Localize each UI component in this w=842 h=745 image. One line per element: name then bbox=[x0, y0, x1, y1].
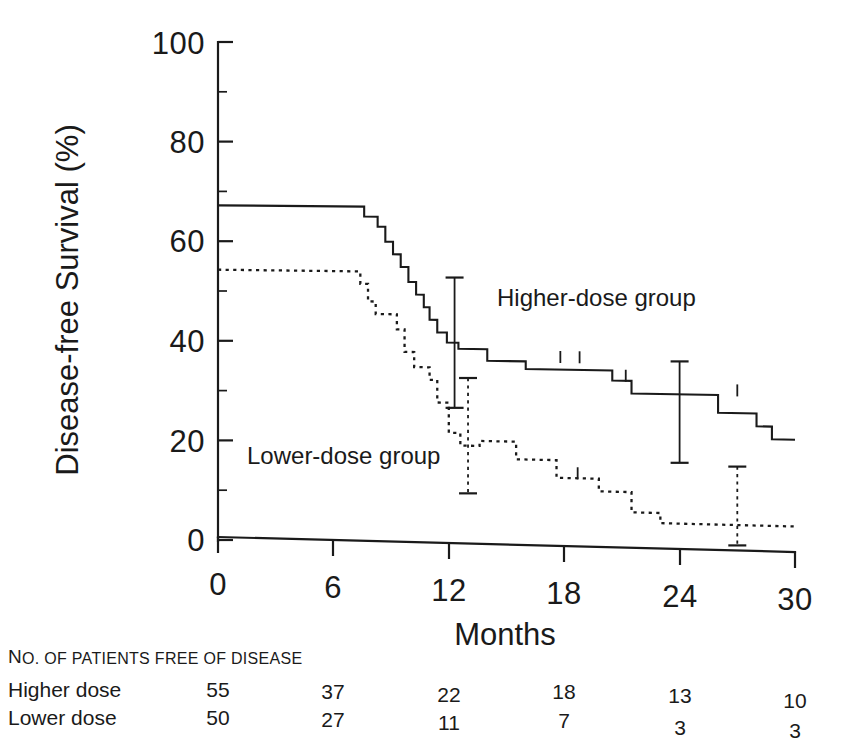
x-tick-label-18: 18 bbox=[546, 576, 581, 611]
risk-table-cell-lower-2: 11 bbox=[438, 711, 460, 734]
risk-table-cell-higher-3: 18 bbox=[552, 680, 575, 703]
risk-table-cell-lower-5: 3 bbox=[789, 719, 801, 742]
y-tick-label-20: 20 bbox=[170, 424, 205, 459]
risk-table-cell-higher-2: 22 bbox=[437, 683, 460, 706]
y-axis-minor-ticks bbox=[218, 92, 227, 490]
risk-table-header-first: N bbox=[8, 646, 22, 667]
higher-dose-step-curve bbox=[218, 205, 795, 439]
y-tick-label-0: 0 bbox=[187, 523, 205, 558]
x-axis: 0 6 12 18 24 30 Months bbox=[209, 537, 813, 652]
x-axis-line bbox=[218, 537, 795, 552]
higher-dose-censor-marks bbox=[560, 351, 737, 396]
risk-table-cell-lower-3: 7 bbox=[558, 709, 570, 732]
kaplan-meier-chart: 100 80 60 40 20 0 Disease-free Survival … bbox=[0, 0, 842, 745]
risk-table-row-lower: Lower dose 50 27 11 7 3 3 bbox=[8, 706, 801, 742]
risk-table-row-higher: Higher dose 55 37 22 18 13 10 bbox=[8, 678, 807, 712]
y-axis-title: Disease-free Survival (%) bbox=[50, 124, 85, 475]
risk-table-cell-lower-4: 3 bbox=[674, 716, 686, 739]
series-lower-dose bbox=[218, 270, 795, 546]
x-tick-label-0: 0 bbox=[209, 567, 227, 602]
lower-dose-group-annotation: Lower-dose group bbox=[247, 442, 440, 469]
figure-container: 100 80 60 40 20 0 Disease-free Survival … bbox=[0, 0, 842, 745]
risk-table-cell-lower-0: 50 bbox=[206, 706, 229, 729]
risk-table-header: NO. OF PATIENTS FREE OF DISEASE bbox=[8, 646, 302, 667]
x-tick-label-6: 6 bbox=[324, 570, 342, 605]
risk-table-cell-higher-4: 13 bbox=[668, 684, 691, 707]
x-tick-label-30: 30 bbox=[777, 582, 812, 617]
y-tick-label-80: 80 bbox=[170, 125, 205, 160]
x-axis-major-ticks bbox=[218, 537, 795, 568]
y-tick-label-60: 60 bbox=[170, 224, 205, 259]
x-axis-title: Months bbox=[454, 617, 556, 652]
risk-table-cell-higher-1: 37 bbox=[321, 680, 344, 703]
risk-table-row-label-higher: Higher dose bbox=[8, 678, 121, 701]
y-tick-label-100: 100 bbox=[152, 26, 205, 61]
risk-table-row-label-lower: Lower dose bbox=[8, 706, 117, 729]
x-tick-label-12: 12 bbox=[431, 573, 466, 608]
risk-table-header-rest: O. OF PATIENTS FREE OF DISEASE bbox=[22, 650, 302, 667]
risk-table-cell-higher-5: 10 bbox=[783, 689, 806, 712]
x-tick-label-24: 24 bbox=[662, 579, 697, 614]
risk-table-cell-lower-1: 27 bbox=[321, 708, 344, 731]
risk-table-cell-higher-0: 55 bbox=[206, 678, 229, 701]
risk-table: NO. OF PATIENTS FREE OF DISEASE Higher d… bbox=[8, 646, 807, 742]
y-axis: 100 80 60 40 20 0 Disease-free Survival … bbox=[50, 26, 233, 558]
y-tick-label-40: 40 bbox=[170, 324, 205, 359]
lower-dose-error-bars bbox=[459, 378, 746, 545]
series-higher-dose bbox=[218, 205, 795, 462]
higher-dose-group-annotation: Higher-dose group bbox=[497, 284, 696, 311]
